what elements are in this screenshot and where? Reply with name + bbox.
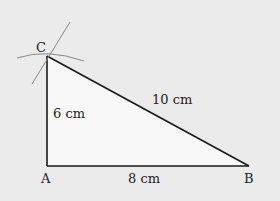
triangle-diagram: C A B 6 cm 8 cm 10 cm [0,0,280,201]
side-label-ab: 8 cm [128,171,160,186]
side-label-ac: 6 cm [53,106,85,121]
side-label-bc: 10 cm [152,92,192,107]
vertex-label-a: A [40,171,51,186]
vertex-label-c: C [36,40,46,55]
vertex-label-b: B [244,171,254,186]
